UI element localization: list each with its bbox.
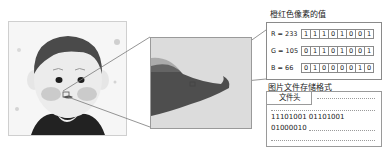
bit-cell: 0 — [337, 64, 346, 72]
bit-cells: 1 1 1 0 1 0 0 1 — [301, 29, 374, 39]
bit-cell: 1 — [364, 30, 373, 38]
bit-cell: 0 — [355, 47, 364, 55]
bit-cell: 0 — [319, 64, 328, 72]
rgb-row-g: G = 105 0 1 1 0 1 0 0 1 — [271, 46, 374, 56]
bit-cell: 1 — [310, 64, 319, 72]
pixel-panel-title: 橙红色像素的值 — [270, 8, 326, 19]
bit-cells: 0 1 0 0 0 0 1 0 — [301, 63, 374, 73]
file-header-cell: 文件头 — [267, 92, 312, 105]
rgb-row-b: B = 66 0 1 0 0 0 0 1 0 — [271, 63, 374, 73]
bit-cell: 1 — [310, 30, 319, 38]
rgb-row-r: R = 233 1 1 1 0 1 0 0 1 — [271, 29, 374, 39]
dotted-line — [309, 130, 375, 131]
bit-cell: 1 — [355, 64, 364, 72]
bit-cell: 0 — [302, 47, 310, 55]
bit-cell: 0 — [302, 64, 310, 72]
bit-cell: 1 — [319, 47, 328, 55]
bit-cell: 1 — [337, 47, 346, 55]
bit-cell: 1 — [337, 30, 346, 38]
bit-cell: 0 — [328, 47, 337, 55]
bit-cell: 0 — [346, 30, 355, 38]
rgb-label: R = 233 — [271, 30, 301, 38]
bit-cell: 1 — [310, 47, 319, 55]
bit-cell: 0 — [346, 64, 355, 72]
bit-cell: 1 — [319, 30, 328, 38]
binary-line-2: 01000010 — [271, 124, 307, 132]
dotted-line — [317, 98, 375, 99]
rgb-values-box: R = 233 1 1 1 0 1 0 0 1 G = 105 0 1 1 0 … — [266, 22, 382, 80]
bit-cell: 1 — [302, 30, 310, 38]
bit-cell: 0 — [346, 47, 355, 55]
binary-line-1: 11101001 01101001 — [271, 113, 344, 121]
rgb-label: B = 66 — [271, 64, 301, 72]
bit-cell: 1 — [364, 47, 373, 55]
bit-cell: 0 — [364, 64, 373, 72]
bit-cell: 0 — [328, 64, 337, 72]
dotted-line — [271, 140, 375, 141]
bit-cell: 0 — [355, 30, 364, 38]
rgb-label: G = 105 — [271, 47, 301, 55]
zoomed-mouth-pixels — [151, 38, 251, 128]
zoomed-pixel-patch — [150, 37, 252, 129]
file-format-box: 文件头 11101001 01101001 01000010 — [266, 91, 382, 147]
bit-cells: 0 1 1 0 1 0 0 1 — [301, 46, 374, 56]
dotted-line — [271, 110, 375, 111]
bit-cell: 0 — [328, 30, 337, 38]
